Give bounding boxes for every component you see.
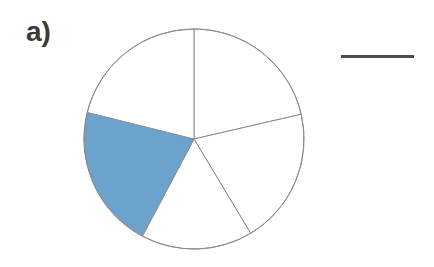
- legend-swatch: [341, 55, 414, 58]
- figure-panel: a): [0, 0, 434, 267]
- pie-chart: [0, 0, 434, 267]
- pie-slice-group: [84, 29, 304, 249]
- legend-line-icon: [341, 55, 414, 58]
